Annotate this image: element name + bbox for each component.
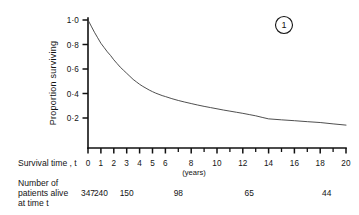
x-tick-label: 1 <box>99 159 104 168</box>
y-axis-label: Proportion surviving <box>48 41 58 126</box>
x-axis-tick-labels: 01234568101214161820 <box>86 159 351 168</box>
x-tick-label: 10 <box>212 159 222 168</box>
risk-count-value: 240 <box>94 188 108 198</box>
x-tick-label: 0 <box>86 159 91 168</box>
x-tick-label: 5 <box>150 159 155 168</box>
x-tick-label: 4 <box>137 159 142 168</box>
survival-curve-figure: 1·00·80·60·40·2 01234568101214161820 Pro… <box>0 0 359 215</box>
y-tick-label: 0·4 <box>67 90 79 99</box>
risk-caption-line-3: at time t <box>18 198 49 208</box>
y-tick-label: 0·8 <box>67 41 79 50</box>
y-tick-label: 0·6 <box>67 65 79 74</box>
x-tick-label: 8 <box>189 159 194 168</box>
x-tick-label: 14 <box>264 159 274 168</box>
axes-group <box>88 18 346 148</box>
plot-canvas: 1·00·80·60·40·2 01234568101214161820 Pro… <box>0 0 359 215</box>
x-tick-label: 6 <box>163 159 168 168</box>
risk-count-value: 65 <box>245 188 255 198</box>
y-axis-tick-labels: 1·00·80·60·40·2 <box>67 16 79 123</box>
risk-caption-line-1: Number of <box>18 178 59 188</box>
x-tick-label: 16 <box>290 159 300 168</box>
risk-count-value: 44 <box>322 188 332 198</box>
x-tick-label: 3 <box>124 159 129 168</box>
risk-table-values: 347240150986544 <box>81 188 332 198</box>
x-axis-units-label: (years) <box>182 168 206 177</box>
figure-number-label: 1 <box>281 20 286 30</box>
survival-curve-line <box>88 20 346 125</box>
risk-count-value: 98 <box>174 188 184 198</box>
y-axis-ticks <box>83 20 89 118</box>
risk-count-value: 150 <box>120 188 134 198</box>
x-axis-ticks <box>88 148 346 154</box>
x-tick-label: 18 <box>316 159 326 168</box>
y-tick-label: 1·0 <box>67 16 79 25</box>
x-axis-label: Survival time , t <box>18 158 77 168</box>
x-tick-label: 20 <box>341 159 351 168</box>
figure-number-badge: 1 <box>276 17 293 34</box>
x-tick-label: 12 <box>238 159 248 168</box>
risk-caption-line-2: patients alive <box>18 188 68 198</box>
x-tick-label: 2 <box>111 159 116 168</box>
y-tick-label: 0·2 <box>67 114 79 123</box>
risk-table-caption: Number of patients alive at time t <box>18 178 68 208</box>
